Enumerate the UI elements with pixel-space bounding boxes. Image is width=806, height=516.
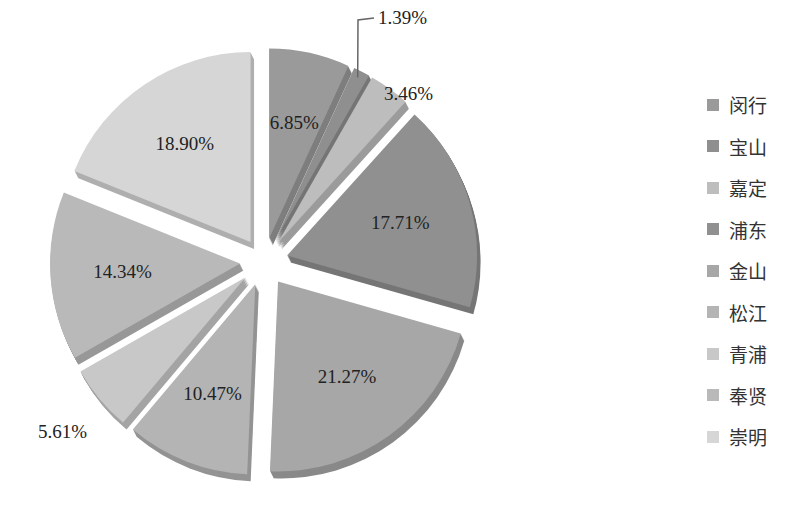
legend-item: 金山 bbox=[707, 250, 767, 292]
legend-label: 奉贤 bbox=[729, 382, 767, 409]
leader-line bbox=[358, 18, 374, 78]
slice-label: 6.85% bbox=[270, 112, 319, 133]
legend-swatch bbox=[707, 265, 719, 277]
slice-label: 17.71% bbox=[371, 212, 430, 233]
legend-label: 浦东 bbox=[729, 216, 767, 243]
legend-swatch bbox=[707, 389, 719, 401]
slice-label: 5.61% bbox=[38, 421, 87, 442]
legend-item: 宝山 bbox=[707, 126, 767, 168]
slice-label: 10.47% bbox=[183, 383, 242, 404]
legend-label: 嘉定 bbox=[729, 174, 767, 201]
legend-swatch bbox=[707, 306, 719, 318]
legend-item: 青浦 bbox=[707, 333, 767, 375]
legend-label: 宝山 bbox=[729, 133, 767, 160]
legend-item: 嘉定 bbox=[707, 167, 767, 209]
legend-item: 浦东 bbox=[707, 209, 767, 251]
slice-label: 14.34% bbox=[93, 261, 152, 282]
legend-item: 闵行 bbox=[707, 84, 767, 126]
slice-label: 1.39% bbox=[378, 7, 427, 28]
legend-label: 金山 bbox=[729, 257, 767, 284]
legend-item: 松江 bbox=[707, 292, 767, 334]
pie-chart: 6.85%1.39%3.46%17.71%21.27%10.47%5.61%14… bbox=[0, 0, 806, 516]
legend-item: 奉贤 bbox=[707, 375, 767, 417]
legend-swatch bbox=[707, 223, 719, 235]
legend-label: 崇明 bbox=[729, 423, 767, 450]
slice-label: 18.90% bbox=[155, 133, 214, 154]
legend-label: 闵行 bbox=[729, 91, 767, 118]
legend-swatch bbox=[707, 182, 719, 194]
legend-swatch bbox=[707, 348, 719, 360]
slice-label: 3.46% bbox=[384, 83, 433, 104]
legend-item: 崇明 bbox=[707, 416, 767, 458]
legend-label: 松江 bbox=[729, 299, 767, 326]
slice-label: 21.27% bbox=[318, 366, 377, 387]
legend-swatch bbox=[707, 140, 719, 152]
legend-label: 青浦 bbox=[729, 340, 767, 367]
legend: 闵行 宝山 嘉定 浦东 金山 松江 青浦 奉贤 崇明 bbox=[707, 84, 767, 458]
legend-swatch bbox=[707, 99, 719, 111]
legend-swatch bbox=[707, 431, 719, 443]
